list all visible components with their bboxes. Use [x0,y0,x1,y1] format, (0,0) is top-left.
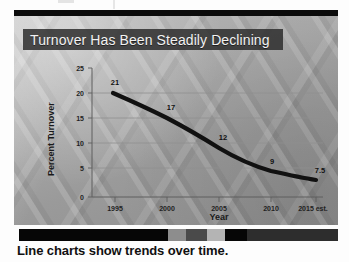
y-tick-marks [88,68,92,197]
data-label-1995: 21 [111,78,119,87]
presentation-slide: Turnover Has Been Steadily Declining [14,10,338,225]
y-axis-title: Percent Turnover [46,102,56,176]
figure-caption: Line charts show trends over time. [17,243,228,258]
x-tick-label-2000: 2000 [159,205,175,212]
data-label-2015-est: 7.5 [315,166,325,175]
data-label-2005: 12 [219,133,227,142]
scan-artifact-right [113,0,115,9]
segment-charcoal-wide [247,229,338,241]
x-tick-label-2010: 2010 [263,205,279,212]
scanned-page: Turnover Has Been Steadily Declining [0,0,349,262]
segment-black-wide [19,229,168,241]
y-tick-label-20: 20 [76,90,84,97]
line-chart-svg: 25 20 15 10 5 0 Percent Turnover 1995 [23,54,333,220]
y-tick-label-0: 0 [80,194,84,201]
x-tick-label-1995: 1995 [107,205,123,212]
x-tick-marks [115,197,316,202]
segment-black-small [225,229,247,241]
slide-title: Turnover Has Been Steadily Declining [23,32,270,48]
scan-artifact-left [58,0,74,3]
data-label-2010: 9 [270,157,274,166]
line-chart: 25 20 15 10 5 0 Percent Turnover 1995 [23,54,333,220]
y-tick-label-25: 25 [76,65,84,72]
color-strip [19,229,338,241]
x-tick-label-2015-est: 2015 est. [298,205,328,212]
segment-dark-gray [186,229,207,241]
segment-mid-gray [168,229,186,241]
x-axis-title: Year [209,212,229,220]
slide-title-band: Turnover Has Been Steadily Declining [23,29,283,50]
y-tick-label-15: 15 [76,115,84,122]
y-tick-label-5: 5 [80,165,84,172]
data-label-2000: 17 [167,103,175,112]
y-tick-label-10: 10 [76,140,84,147]
data-line-percent-turnover [113,93,316,180]
slide-top-black-bar [14,10,338,16]
x-tick-label-2005: 2005 [211,205,227,212]
gridlines [92,72,323,168]
segment-light-gray [207,229,225,241]
